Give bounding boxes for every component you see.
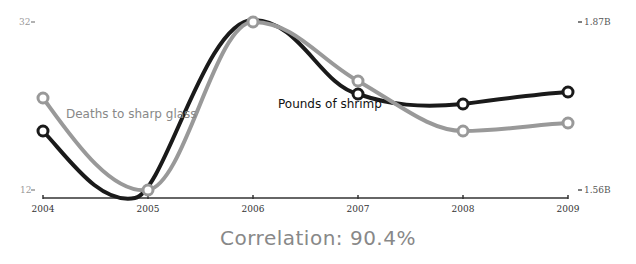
right-axis-top-label: 1.87B <box>584 17 611 27</box>
x-tick-2005: 2005 <box>137 204 160 214</box>
x-tick-2009: 2009 <box>557 204 580 214</box>
left-axis-bottom-label: 12 <box>20 185 31 195</box>
right-axis-bottom-label: 1.56B <box>584 185 611 195</box>
left-axis-top-label: 32 <box>19 17 30 27</box>
x-tick-2004: 2004 <box>32 204 55 214</box>
x-tick-2007: 2007 <box>347 204 370 214</box>
series-label-deaths: Deaths to sharp glass <box>66 107 197 121</box>
correlation-label: Correlation: 90.4% <box>0 226 636 250</box>
x-tick-2006: 2006 <box>242 204 265 214</box>
x-tick-2008: 2008 <box>452 204 475 214</box>
series-label-shrimp: Pounds of shrimp <box>278 97 382 111</box>
correlation-chart: 32 12 1.87B 1.56B 2004 2005 2006 2007 20… <box>0 0 636 264</box>
